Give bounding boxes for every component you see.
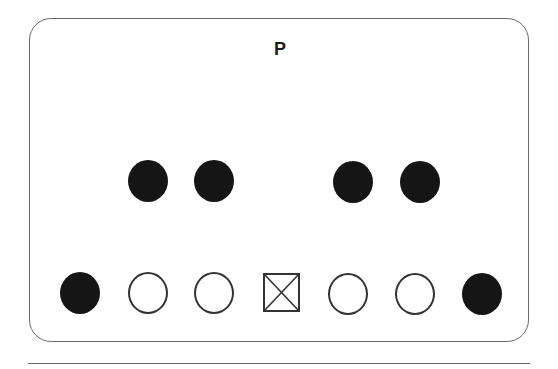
left-end-player <box>60 272 100 314</box>
bottom-divider <box>28 363 530 364</box>
right-guard-player <box>328 273 368 315</box>
backfield-player-3 <box>333 161 373 203</box>
right-end-player <box>462 273 502 315</box>
right-tackle-player <box>395 273 435 315</box>
left-tackle-player <box>128 272 168 314</box>
backfield-player-2 <box>194 160 234 202</box>
center-x-square-icon <box>263 273 300 312</box>
backfield-player-1 <box>128 160 168 202</box>
left-guard-player <box>194 272 234 314</box>
backfield-player-4 <box>400 161 440 203</box>
formation-label: P <box>270 39 290 59</box>
